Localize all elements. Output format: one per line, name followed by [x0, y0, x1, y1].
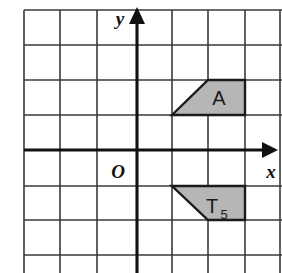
- y-axis-label: y: [114, 8, 125, 29]
- shape-a-label: A: [212, 87, 226, 109]
- coordinate-grid-figure: A T 5 y x O: [0, 0, 282, 273]
- shape-t5-label-subscript: 5: [220, 207, 227, 222]
- x-axis-label: x: [265, 161, 276, 182]
- x-axis-arrow-icon: [262, 142, 278, 158]
- shape-t5-group: T 5: [172, 186, 245, 222]
- coordinate-plane: A T 5 y x O: [0, 0, 282, 273]
- shape-t5-label: T: [206, 195, 218, 217]
- x-axis: [24, 142, 278, 158]
- shape-a-polygon: [172, 80, 245, 115]
- y-axis: [129, 7, 145, 273]
- shape-a-group: A: [172, 80, 245, 115]
- origin-label: O: [111, 161, 125, 182]
- grid-vertical-lines: [24, 10, 280, 273]
